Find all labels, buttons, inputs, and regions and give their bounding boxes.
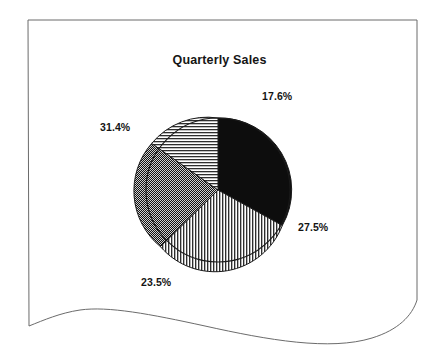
pie-slice-label-3: 23.5% (141, 276, 171, 288)
pie-slice-label-4: 31.4% (100, 121, 130, 133)
document-page: Quarterly Sales 17.6% 27.5% 23.5% 31.4% (0, 0, 439, 361)
pie-slice-label-1: 17.6% (262, 90, 292, 102)
chart-title: Quarterly Sales (0, 53, 439, 67)
pie-slice-label-2: 27.5% (298, 221, 328, 233)
